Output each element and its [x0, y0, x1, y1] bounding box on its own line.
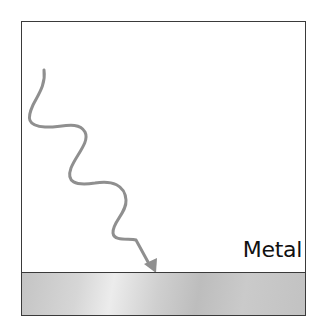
- wave-path: [29, 70, 148, 262]
- metal-slab: [21, 272, 306, 316]
- metal-label: Metal: [243, 237, 302, 262]
